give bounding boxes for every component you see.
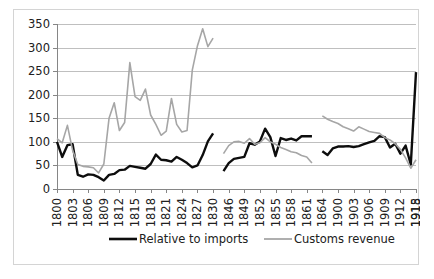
- y-tick-label-100: 100: [28, 135, 50, 149]
- y-tick-label-0: 0: [43, 182, 50, 196]
- x-tick-label-1864: 1864: [315, 198, 329, 227]
- x-tick-label-1861: 1861: [300, 198, 314, 227]
- x-tick-label-1815: 1815: [128, 198, 142, 227]
- y-tick-label-350: 350: [28, 17, 50, 31]
- series-line-relative-to-imports: [57, 72, 416, 180]
- x-tick-label-1909: 1909: [378, 198, 392, 227]
- y-tick-label-50: 50: [35, 158, 50, 172]
- line-chart: 050100150200250300350 180018031806180918…: [14, 10, 420, 266]
- x-tick-label-1858: 1858: [284, 198, 298, 227]
- x-axis-tick-labels: 1800180318061809181218151818182118241827…: [50, 189, 420, 227]
- gridlines: [57, 25, 416, 190]
- x-tick-label-1824: 1824: [175, 198, 189, 227]
- x-tick-label-1900: 1900: [331, 198, 345, 227]
- x-tick-label-1812: 1812: [112, 198, 126, 227]
- x-tick-label-1821: 1821: [159, 198, 173, 227]
- x-tick-label-1852: 1852: [253, 198, 267, 227]
- chart-legend: Relative to importsCustoms revenue: [109, 232, 395, 246]
- legend-label-0: Relative to imports: [139, 232, 248, 246]
- y-tick-label-300: 300: [28, 41, 50, 55]
- x-tick-label-1918: 1918: [409, 198, 420, 227]
- x-tick-label-1809: 1809: [97, 198, 111, 227]
- x-tick-label-1849: 1849: [237, 198, 251, 227]
- x-tick-label-1903: 1903: [347, 198, 361, 227]
- y-tick-label-250: 250: [28, 64, 50, 78]
- x-tick-label-1830: 1830: [206, 198, 220, 227]
- x-tick-label-1800: 1800: [50, 198, 64, 227]
- chart-figure: 050100150200250300350 180018031806180918…: [13, 9, 419, 265]
- y-tick-label-200: 200: [28, 88, 50, 102]
- x-tick-label-1912: 1912: [393, 198, 407, 227]
- data-series-group: [57, 29, 416, 181]
- x-tick-label-1806: 1806: [81, 198, 95, 227]
- x-tick-label-1818: 1818: [144, 198, 158, 227]
- y-tick-label-150: 150: [28, 111, 50, 125]
- series-line-customs-revenue: [57, 29, 416, 173]
- y-axis-tick-labels: 050100150200250300350: [28, 17, 57, 196]
- x-tick-label-1803: 1803: [66, 198, 80, 227]
- x-tick-label-1827: 1827: [190, 198, 204, 227]
- x-tick-label-1846: 1846: [222, 198, 236, 227]
- x-tick-label-1906: 1906: [362, 198, 376, 227]
- legend-label-1: Customs revenue: [294, 232, 395, 246]
- x-tick-label-1855: 1855: [269, 198, 283, 227]
